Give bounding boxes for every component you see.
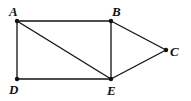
node-d [15,77,19,81]
node-label-c: C [170,44,179,59]
node-label-a: A [8,4,18,19]
node-c [164,48,168,52]
edges-group [17,21,166,79]
edge-bc [111,21,166,50]
edge-ae [17,21,111,79]
node-label-d: D [8,82,19,97]
node-b [109,19,113,23]
graph-diagram: ABCDE [0,0,191,101]
edge-ce [111,50,166,79]
nodes-group [15,19,168,81]
node-label-b: B [111,4,121,19]
node-a [15,19,19,23]
node-label-e: E [106,83,116,98]
node-e [109,77,113,81]
labels-group: ABCDE [8,4,179,98]
